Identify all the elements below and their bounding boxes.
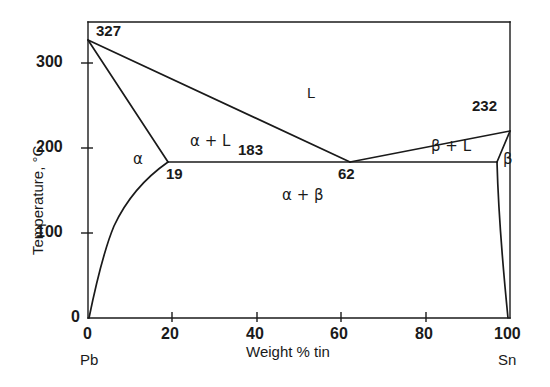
region-label-alpha: α xyxy=(133,152,143,167)
annotation-alpha-max-solubility: 19 xyxy=(166,166,183,181)
y-tick-label-0: 0 xyxy=(71,309,80,325)
x-tick-label-60: 60 xyxy=(330,326,348,342)
alpha-solvus-line xyxy=(89,162,168,318)
endmember-label-pb: Pb xyxy=(80,352,98,367)
beta-solvus-line xyxy=(497,162,508,318)
y-tick-label-200: 200 xyxy=(36,139,63,155)
annotation-pb-melting-point: 327 xyxy=(96,23,121,38)
x-tick-label-40: 40 xyxy=(246,326,264,342)
annotation-eutectic-temperature: 183 xyxy=(238,142,263,157)
phase-diagram-figure: Temperature, °C 300 200 100 0 0 20 40 60… xyxy=(0,0,550,387)
region-label-alpha-plus-beta: α + β xyxy=(282,188,324,203)
y-tick-label-300: 300 xyxy=(36,54,63,70)
endmember-label-sn: Sn xyxy=(498,352,516,367)
region-label-beta: β xyxy=(503,152,513,167)
beta-liquidus-line xyxy=(350,131,510,162)
y-tick-label-100: 100 xyxy=(36,224,63,240)
region-label-liquid: L xyxy=(307,85,315,100)
x-tick-label-80: 80 xyxy=(415,326,433,342)
x-tick-label-100: 100 xyxy=(494,326,521,342)
x-tick-label-20: 20 xyxy=(161,326,179,342)
region-label-alpha-plus-liquid: α + L xyxy=(190,134,230,149)
region-label-beta-plus-liquid: β + L xyxy=(431,139,471,154)
annotation-eutectic-composition: 62 xyxy=(338,166,355,181)
annotation-sn-melting-point: 232 xyxy=(472,98,497,113)
x-tick-label-0: 0 xyxy=(83,326,92,342)
x-axis-title: Weight % tin xyxy=(246,344,330,359)
